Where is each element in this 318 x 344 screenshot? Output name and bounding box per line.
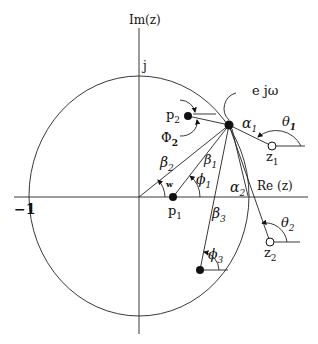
p1-label: p1: [168, 204, 182, 221]
re-axis-label: Re (z): [257, 180, 293, 192]
Phi2-arc-top: [180, 100, 195, 112]
Phi2-label: Φ2: [161, 131, 178, 148]
p2-label: p2: [166, 108, 180, 125]
theta1-label: θ1: [282, 115, 296, 132]
pole-p2: [184, 112, 192, 120]
phi3-label: ϕ3: [208, 247, 223, 265]
ejw-point: [225, 121, 234, 130]
beta2-label: β2: [160, 155, 174, 173]
alpha1-label: α1: [242, 116, 257, 134]
w-label: w: [166, 180, 173, 188]
phi1-label: ϕ1: [196, 172, 211, 190]
pole-p3: [196, 266, 204, 274]
diagram-canvas: [0, 0, 318, 344]
ejw-label: e jω: [252, 84, 278, 97]
im-axis-label: Im(z): [129, 14, 161, 26]
beta1-label: β1: [204, 153, 217, 170]
w-arc: [158, 180, 165, 197]
pole-p1: [169, 193, 177, 201]
Phi2-arc-bottom: [180, 120, 197, 136]
z2-label: z2: [264, 246, 277, 263]
j-label: j: [143, 60, 147, 72]
alpha2-label: α2: [230, 180, 245, 198]
theta1-arc: [258, 130, 301, 146]
unit-circle-pole-zero-diagram: Im(z) Re (z) j −1 e jω p2 p1 z1 z2 α1 α2…: [0, 0, 318, 344]
p2-vector: [188, 116, 229, 125]
z1-label: z1: [266, 150, 279, 167]
minus-one-label: −1: [14, 202, 35, 216]
ejw-callout: [224, 93, 236, 120]
beta3-label: β3: [212, 206, 226, 224]
theta2-label: θ2: [281, 216, 295, 233]
